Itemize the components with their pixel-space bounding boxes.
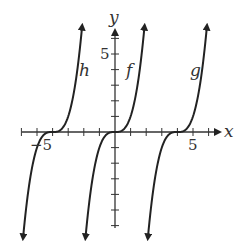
cubic-graph: x y −5 5 5 h f g [0,0,244,250]
y-axis-label: y [108,7,119,27]
x-axis-label: x [224,121,234,141]
curve-label-f: f [124,60,135,80]
x-tick-label-neg5: −5 [30,136,52,154]
curve-label-g: g [190,60,201,80]
y-tick-label-5: 5 [100,45,110,63]
x-tick-label-5: 5 [188,136,198,154]
curve-label-h: h [79,60,90,80]
